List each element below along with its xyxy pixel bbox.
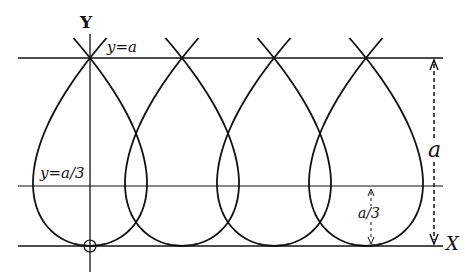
label-dimension-a: a bbox=[428, 139, 441, 161]
loop-curve bbox=[165, 38, 239, 246]
x-axis-label: X bbox=[446, 235, 459, 253]
label-dimension-a-third: a/3 bbox=[358, 206, 380, 220]
loop-curve bbox=[257, 38, 331, 246]
loop-curve bbox=[217, 38, 291, 246]
label-y-equals-a: y=a bbox=[107, 40, 137, 55]
curve-plot bbox=[0, 0, 465, 276]
loop-curve bbox=[73, 38, 147, 246]
diagram-canvas: Y y=a y=a/3 a a/3 X bbox=[0, 0, 465, 276]
loop-curve bbox=[125, 38, 199, 246]
loop-curve bbox=[33, 38, 107, 246]
y-axis-label: Y bbox=[80, 14, 92, 31]
label-y-equals-a-third: y=a/3 bbox=[40, 166, 85, 181]
